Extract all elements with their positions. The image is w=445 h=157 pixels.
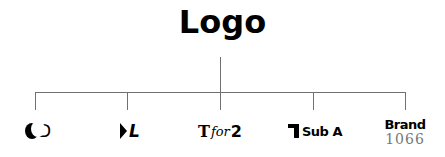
branch-connector-1 bbox=[35, 92, 36, 110]
child-node-2: L bbox=[110, 116, 150, 146]
child-node-3: T for 2 bbox=[190, 116, 250, 146]
child-prefix: T bbox=[198, 122, 210, 141]
child-node-4: Sub A bbox=[285, 116, 345, 146]
crescent-moon-icon bbox=[25, 123, 39, 139]
branch-connector-4 bbox=[313, 92, 314, 110]
child-middle: for bbox=[211, 124, 230, 139]
flag-bracket-icon bbox=[288, 124, 299, 138]
child-suffix: 2 bbox=[231, 122, 242, 141]
horizontal-connector bbox=[35, 92, 406, 93]
child-label: Brand bbox=[384, 118, 425, 132]
child-sublabel: 1066 bbox=[385, 132, 425, 146]
branch-connector-2 bbox=[127, 92, 128, 110]
child-label: L bbox=[129, 121, 140, 141]
branch-connector-5 bbox=[405, 92, 406, 110]
child-node-5: Brand 1066 bbox=[383, 117, 427, 147]
child-label: Sub A bbox=[302, 124, 342, 139]
root-logo-title: Logo bbox=[0, 2, 445, 42]
play-triangle-icon bbox=[120, 123, 127, 139]
child-node-1: D bbox=[20, 116, 56, 146]
root-connector bbox=[220, 57, 221, 110]
